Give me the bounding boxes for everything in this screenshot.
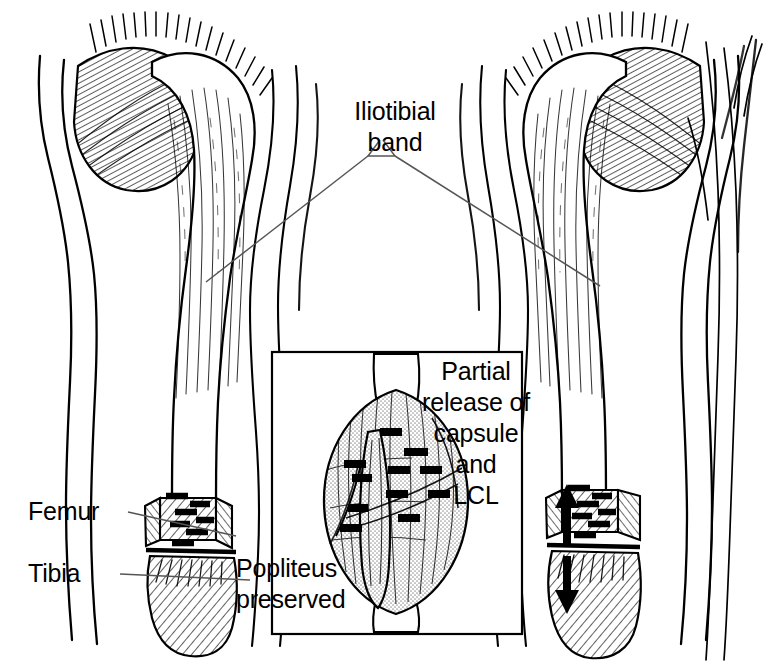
label-tibia: Tibia [28,558,138,589]
label-popliteus-preserved: Popliteus preserved [236,553,406,615]
label-partial-release-of-capsule-and-lcl: Partial release of capsule and LCL [402,356,550,511]
right-proximal-tibia [548,551,641,658]
label-iliotibial-band: Iliotibial band [320,96,470,158]
illustration-figure: Iliotibial band Femur Tibia Partial rele… [0,0,774,666]
left-joint-line [146,550,236,552]
right-joint-line [547,545,640,547]
label-femur: Femur [28,496,138,527]
